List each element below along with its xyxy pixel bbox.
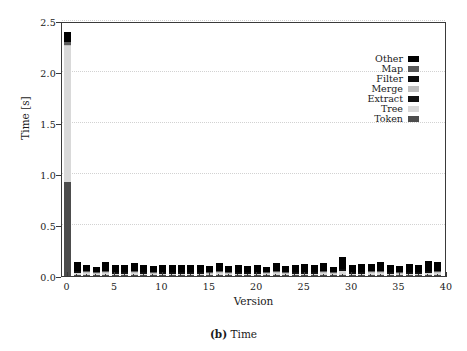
x-tick-mark — [105, 274, 106, 277]
y-tick-label: 0.5 — [6, 221, 56, 232]
legend-item-merge: Merge — [368, 84, 419, 93]
x-tick-mark — [218, 274, 219, 277]
figure-caption: (b) Time — [0, 328, 467, 340]
x-tick-mark — [332, 274, 333, 277]
y-tick-label: 1.0 — [6, 170, 56, 181]
x-tick-label: 5 — [111, 281, 117, 292]
bar — [131, 263, 138, 276]
x-tick-mark — [171, 274, 172, 277]
bar — [64, 32, 71, 276]
bar-segment-token — [358, 275, 365, 276]
bar-segment-token — [159, 275, 166, 276]
bar — [169, 265, 176, 276]
x-tick-mark — [437, 274, 438, 277]
x-tick-mark — [114, 272, 115, 277]
bar — [178, 265, 185, 276]
bar — [396, 266, 403, 276]
legend-swatch-icon — [408, 66, 419, 72]
x-tick-mark — [86, 274, 87, 277]
x-tick-mark — [370, 274, 371, 277]
x-tick-label: 25 — [298, 281, 311, 292]
y-tick-label: 1.5 — [6, 119, 56, 130]
bar-segment-token — [187, 275, 194, 276]
bar-segment-token — [311, 275, 318, 276]
bar — [121, 265, 128, 276]
bar-segment-token — [301, 275, 308, 276]
bar-segment-other — [339, 257, 346, 269]
bar-segment-other — [235, 265, 242, 272]
x-tick-mark — [342, 274, 343, 277]
legend-swatch-icon — [408, 96, 419, 102]
legend-item-filter: Filter — [368, 74, 419, 83]
bar — [206, 266, 213, 276]
legend-label: Filter — [376, 74, 403, 83]
bar-segment-token — [434, 275, 441, 276]
y-tick-label: 2.0 — [6, 68, 56, 79]
x-tick-label: 15 — [203, 281, 216, 292]
bar-segment-token — [339, 275, 346, 276]
bar — [150, 266, 157, 276]
bar-segment-token — [216, 275, 223, 276]
bar-segment-other — [377, 262, 384, 271]
bar — [112, 265, 119, 276]
bar-segment-token — [93, 275, 100, 276]
bar — [311, 265, 318, 276]
figure-time: 0.00.51.01.52.02.5 Time [s] OtherMapFilt… — [0, 0, 467, 351]
bar-segment-other — [131, 263, 138, 272]
bar-segment-other — [368, 264, 375, 272]
bar-segment-other — [216, 263, 223, 271]
bar-segment-other — [102, 262, 109, 271]
x-tick-mark — [446, 272, 447, 277]
x-tick-mark — [408, 274, 409, 277]
bar-segment-token — [197, 275, 204, 276]
bar-segment-token — [206, 275, 213, 276]
bar-segment-token — [235, 275, 242, 276]
bar-segment-token — [415, 275, 422, 276]
bar-segment-other — [292, 265, 299, 272]
bar-segment-other — [434, 262, 441, 271]
bar-segment-token — [425, 275, 432, 276]
legend-label: Merge — [371, 84, 403, 93]
bar-segment-other — [83, 265, 90, 272]
bar — [358, 264, 365, 276]
bar — [425, 261, 432, 276]
legend: OtherMapFilterMergeExtractTreeToken — [368, 54, 419, 123]
bar-segment-other — [311, 265, 318, 272]
bar — [93, 267, 100, 276]
x-tick-mark — [285, 274, 286, 277]
x-tick-label: 10 — [155, 281, 168, 292]
bar-segment-token — [169, 275, 176, 276]
bar — [244, 266, 251, 277]
bar — [102, 262, 109, 276]
bar-segment-token — [112, 275, 119, 276]
bar-segment-token — [178, 275, 185, 276]
bar — [349, 265, 356, 276]
caption-text: Time — [231, 328, 258, 340]
legend-item-map: Map — [368, 64, 419, 73]
bar — [320, 263, 327, 276]
bar-segment-other — [197, 265, 204, 272]
x-tick-label: 20 — [250, 281, 263, 292]
x-tick-mark — [124, 274, 125, 277]
bar-segment-token — [377, 275, 384, 276]
bar-segment-other — [187, 265, 194, 272]
bar-segment-token — [396, 275, 403, 276]
legend-item-other: Other — [368, 54, 419, 63]
bar-segment-other — [320, 263, 327, 271]
x-tick-mark — [143, 274, 144, 277]
x-tick-mark — [162, 272, 163, 277]
bar — [415, 265, 422, 276]
bar — [368, 264, 375, 276]
bar-segment-token — [330, 275, 337, 276]
x-tick-mark — [190, 274, 191, 277]
bar — [330, 267, 337, 276]
x-tick-mark — [427, 274, 428, 277]
x-tick-mark — [351, 272, 352, 277]
legend-swatch-icon — [408, 106, 419, 112]
bar-segment-other — [358, 264, 365, 271]
bar — [406, 264, 413, 276]
bar-segment-other — [349, 265, 356, 272]
plot-area: OtherMapFilterMergeExtractTreeToken — [61, 22, 446, 277]
bar-segment-token — [349, 275, 356, 276]
bar-segment-other — [121, 265, 128, 272]
